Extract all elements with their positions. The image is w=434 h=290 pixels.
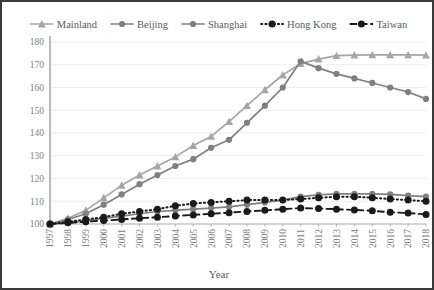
data-point-shanghai — [298, 58, 304, 64]
y-tick-label: 120 — [30, 174, 45, 184]
x-tick-label: 2005 — [189, 229, 199, 248]
data-point-taiwan — [118, 216, 125, 223]
data-point-shanghai — [280, 84, 286, 90]
data-point-shanghai — [244, 120, 250, 126]
data-point-taiwan — [351, 206, 358, 213]
data-point-shanghai — [83, 211, 89, 217]
x-tick-label: 2015 — [368, 229, 378, 248]
line-chart: MainlandBeijingShanghaiHong KongTaiwan 1… — [2, 2, 434, 290]
data-point-taiwan — [279, 206, 286, 213]
data-point-shanghai — [154, 172, 160, 178]
y-tick-label: 170 — [30, 60, 45, 70]
data-point-mainland — [136, 171, 144, 178]
y-tick-label: 100 — [30, 219, 45, 229]
data-point-shanghai — [172, 163, 178, 169]
data-point-shanghai — [208, 145, 214, 151]
y-tick-label: 180 — [30, 37, 45, 47]
series-shanghai — [47, 58, 429, 227]
data-point-shanghai — [315, 65, 321, 71]
x-tick-label: 2006 — [207, 229, 217, 248]
data-point-shanghai — [405, 89, 411, 95]
data-point-beijing — [119, 21, 125, 27]
legend-label-taiwan: Taiwan — [376, 19, 408, 30]
x-tick-label: 2014 — [350, 229, 360, 248]
legend-item-mainland[interactable]: Mainland — [31, 19, 98, 30]
data-point-shanghai — [387, 84, 393, 90]
data-point-shanghai — [351, 75, 357, 81]
data-point-taiwan — [47, 221, 54, 228]
data-point-taiwan — [172, 213, 179, 220]
x-tick-label: 2003 — [153, 229, 163, 248]
x-tick-label: 1998 — [63, 229, 73, 248]
x-tick-label: 2009 — [260, 229, 270, 248]
series-layer — [46, 51, 430, 228]
x-axis-ticks: 1997199819992000200120022003200420052006… — [45, 224, 431, 248]
x-tick-label: 2017 — [403, 229, 413, 248]
x-tick-label: 2016 — [386, 229, 396, 248]
data-point-hong-kong — [423, 198, 430, 205]
data-point-taiwan — [333, 206, 340, 213]
x-tick-label: 2010 — [278, 229, 288, 248]
data-point-mainland — [118, 181, 126, 188]
x-tick-label: 2011 — [296, 229, 306, 248]
data-point-taiwan — [315, 205, 322, 212]
legend-label-hong-kong: Hong Kong — [287, 19, 337, 30]
data-point-hong-kong — [279, 197, 286, 204]
legend-item-hong-kong[interactable]: Hong Kong — [261, 19, 337, 30]
y-tick-label: 130 — [30, 151, 45, 161]
legend-item-taiwan[interactable]: Taiwan — [350, 19, 408, 30]
data-point-taiwan — [261, 207, 268, 214]
data-point-taiwan — [387, 209, 394, 216]
data-point-shanghai — [226, 137, 232, 143]
data-point-taiwan — [100, 217, 107, 224]
data-point-shanghai — [333, 71, 339, 77]
legend-label-shanghai: Shanghai — [208, 19, 247, 30]
data-point-shanghai — [136, 181, 142, 187]
x-tick-label: 2001 — [117, 229, 127, 248]
data-point-taiwan — [423, 211, 430, 218]
data-point-mainland — [279, 71, 287, 78]
x-tick-label: 2000 — [99, 229, 109, 248]
y-tick-label: 110 — [30, 197, 44, 207]
chart-frame: MainlandBeijingShanghaiHong KongTaiwan 1… — [0, 0, 434, 290]
data-point-taiwan — [154, 214, 161, 221]
data-point-hong-kong — [315, 194, 322, 201]
data-point-hong-kong — [269, 21, 276, 28]
legend-item-beijing[interactable]: Beijing — [111, 19, 169, 30]
data-point-hong-kong — [208, 199, 215, 206]
y-tick-label: 160 — [30, 83, 45, 93]
data-point-hong-kong — [243, 197, 250, 204]
legend-item-shanghai[interactable]: Shanghai — [182, 19, 247, 30]
data-point-hong-kong — [172, 202, 179, 209]
data-point-hong-kong — [136, 208, 143, 215]
legend-label-mainland: Mainland — [57, 19, 98, 30]
data-point-taiwan — [358, 21, 365, 28]
legend-label-beijing: Beijing — [137, 19, 169, 30]
data-point-beijing — [208, 205, 214, 211]
y-axis-ticks: 100110120130140150160170180 — [30, 37, 45, 229]
data-point-hong-kong — [190, 200, 197, 207]
x-tick-label: 2018 — [421, 229, 431, 248]
x-tick-label: 2012 — [314, 229, 324, 248]
data-point-taiwan — [190, 211, 197, 218]
x-axis-title: Year — [209, 268, 230, 280]
x-tick-label: 1999 — [81, 229, 91, 248]
data-point-hong-kong — [297, 195, 304, 202]
data-point-hong-kong — [369, 194, 376, 201]
data-point-taiwan — [369, 207, 376, 214]
data-point-hong-kong — [261, 197, 268, 204]
data-point-hong-kong — [405, 197, 412, 204]
data-point-shanghai — [119, 191, 125, 197]
data-point-mainland — [153, 162, 161, 169]
y-tick-label: 140 — [30, 128, 45, 138]
data-point-mainland — [189, 142, 197, 149]
data-point-shanghai — [101, 202, 107, 208]
data-point-shanghai — [190, 156, 196, 162]
data-point-beijing — [226, 204, 232, 210]
data-point-hong-kong — [154, 206, 161, 213]
x-tick-label: 1997 — [45, 229, 55, 248]
data-point-taiwan — [208, 210, 215, 217]
data-point-taiwan — [243, 208, 250, 215]
x-tick-label: 2004 — [171, 229, 181, 248]
data-point-hong-kong — [351, 193, 358, 200]
